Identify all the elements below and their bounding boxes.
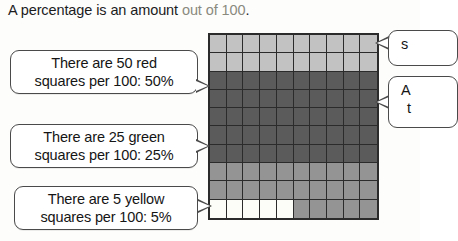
grid-cell-red <box>344 108 361 126</box>
grid-cell-blue <box>210 181 227 199</box>
grid-cell-blue <box>310 163 327 181</box>
grid-cell-blue <box>360 181 377 199</box>
grid-cell-red <box>294 90 311 108</box>
grid-cell-green <box>227 53 244 71</box>
grid-cell-red <box>260 126 277 144</box>
grid-cell-red <box>227 145 244 163</box>
callout-red: There are 50 red squares per 100: 50% <box>10 50 198 94</box>
callout-green-line1: There are 25 green <box>11 128 197 146</box>
grid-cell-red <box>260 90 277 108</box>
grid-cell-blue <box>294 200 311 218</box>
callout-green-pointer-fill <box>196 141 208 151</box>
grid-cell-red <box>277 145 294 163</box>
grid-cell-red <box>327 72 344 90</box>
hundred-square-grid <box>208 33 379 220</box>
grid-cell-red <box>210 145 227 163</box>
grid-cell-green <box>344 35 361 53</box>
grid-cell-red <box>344 90 361 108</box>
grid-cell-yellow <box>243 200 260 218</box>
grid-cell-red <box>227 72 244 90</box>
callout-yellow-line1: There are 5 yellow <box>15 190 197 208</box>
grid-cell-green <box>344 53 361 71</box>
grid-cell-blue <box>243 181 260 199</box>
grid-cell-green <box>260 53 277 71</box>
grid-cell-red <box>277 90 294 108</box>
grid-cell-red <box>294 145 311 163</box>
grid-cell-red <box>360 126 377 144</box>
grid-cell-blue <box>243 163 260 181</box>
grid-cell-yellow <box>227 200 244 218</box>
grid-cell-blue <box>327 200 344 218</box>
page-title: A percentage is an amount out of 100. <box>8 2 249 18</box>
callout-right-bottom-line2: t <box>401 99 457 117</box>
grid-cell-blue <box>310 200 327 218</box>
grid-cell-blue <box>344 200 361 218</box>
grid-cell-blue <box>294 163 311 181</box>
grid-cell-green <box>243 35 260 53</box>
grid-cell-green <box>327 53 344 71</box>
grid-cell-red <box>310 72 327 90</box>
grid-cell-yellow <box>260 200 277 218</box>
grid-cell-red <box>310 108 327 126</box>
grid-cell-blue <box>227 163 244 181</box>
grid-cell-red <box>360 108 377 126</box>
grid-cell-red <box>227 126 244 144</box>
grid-cell-red <box>227 108 244 126</box>
grid-cell-red <box>210 126 227 144</box>
grid-cell-green <box>360 53 377 71</box>
grid-cell-blue <box>344 181 361 199</box>
grid-cell-red <box>344 72 361 90</box>
grid-cell-red <box>327 90 344 108</box>
callout-red-line1: There are 50 red <box>11 54 197 72</box>
headline-lead-text: A percentage is an amount <box>8 2 182 18</box>
hundred-square-diagram <box>208 33 379 220</box>
grid-cell-red <box>260 72 277 90</box>
callout-right-bottom-line1: A <box>401 81 457 99</box>
headline-period: . <box>245 2 249 18</box>
grid-cell-blue <box>310 181 327 199</box>
grid-cell-green <box>310 35 327 53</box>
grid-cell-red <box>294 126 311 144</box>
grid-cell-red <box>210 108 227 126</box>
grid-cell-red <box>210 90 227 108</box>
grid-cell-blue <box>344 163 361 181</box>
grid-cell-green <box>227 35 244 53</box>
grid-cell-green <box>294 35 311 53</box>
grid-cell-blue <box>260 181 277 199</box>
grid-cell-green <box>260 35 277 53</box>
grid-cell-red <box>294 108 311 126</box>
grid-cell-green <box>277 35 294 53</box>
grid-cell-green <box>210 35 227 53</box>
grid-cell-red <box>243 108 260 126</box>
grid-cell-yellow <box>277 200 294 218</box>
grid-cell-red <box>360 72 377 90</box>
grid-cell-red <box>327 145 344 163</box>
callout-green-line2: squares per 100: 25% <box>11 146 197 164</box>
grid-cell-green <box>327 35 344 53</box>
grid-cell-blue <box>210 163 227 181</box>
grid-cell-red <box>210 72 227 90</box>
grid-cell-red <box>310 90 327 108</box>
grid-cell-red <box>243 145 260 163</box>
grid-cell-red <box>294 72 311 90</box>
grid-cell-blue <box>277 163 294 181</box>
callout-red-line2: squares per 100: 50% <box>11 72 197 90</box>
grid-cell-blue <box>260 163 277 181</box>
grid-cell-red <box>327 126 344 144</box>
grid-cell-blue <box>227 181 244 199</box>
callout-yellow-line2: squares per 100: 5% <box>15 208 197 226</box>
grid-cell-green <box>243 53 260 71</box>
grid-cell-blue <box>360 200 377 218</box>
callout-yellow-pointer-fill <box>198 201 210 211</box>
grid-cell-red <box>260 145 277 163</box>
grid-cell-yellow <box>210 200 227 218</box>
grid-cell-green <box>277 53 294 71</box>
grid-cell-red <box>344 145 361 163</box>
grid-cell-red <box>227 90 244 108</box>
grid-cell-red <box>243 126 260 144</box>
grid-cell-red <box>260 108 277 126</box>
callout-red-pointer-fill <box>196 81 208 91</box>
callout-right-top: s <box>388 30 458 66</box>
callout-yellow: There are 5 yellow squares per 100: 5% <box>14 186 198 230</box>
grid-cell-red <box>277 72 294 90</box>
